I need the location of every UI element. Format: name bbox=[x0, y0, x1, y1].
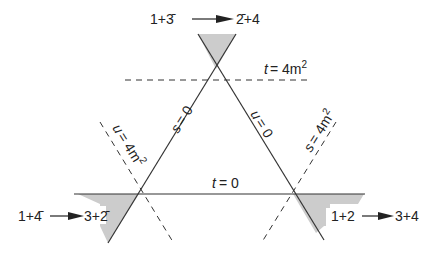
u-threshold-label: u= 4m2 bbox=[109, 120, 149, 170]
u-channel-final: 3+2̄ bbox=[84, 208, 110, 224]
s-channel-initial: 1+2 bbox=[331, 208, 355, 224]
t-zero-label: t= 0 bbox=[212, 175, 239, 191]
s-channel-final: 3+4 bbox=[395, 208, 419, 224]
t-threshold-label: t= 4m2 bbox=[264, 59, 307, 77]
s-threshold-label: s= 4m2 bbox=[298, 106, 338, 155]
u-zero-label: u= 0 bbox=[247, 107, 276, 141]
t-channel-arrow bbox=[192, 15, 234, 23]
t-channel-region bbox=[198, 34, 236, 69]
mandelstam-diagram: 1+3̄ 2̄+4 1+4̄ 3+2̄ 1+2 3+4 t= 0 t= 4m2 … bbox=[0, 0, 440, 256]
u-channel-initial: 1+4̄ bbox=[18, 208, 44, 224]
t-channel-final: 2̄+4 bbox=[236, 11, 260, 27]
t-channel-initial: 1+3̄ bbox=[150, 11, 176, 27]
